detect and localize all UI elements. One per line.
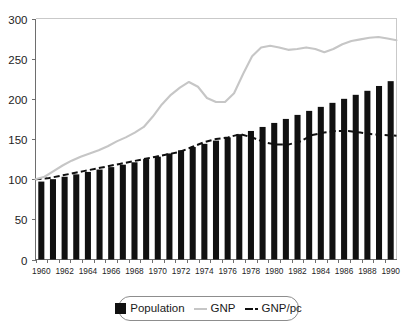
x-tick-label: 1968 bbox=[125, 266, 144, 276]
population-bar bbox=[143, 159, 149, 259]
population-bar bbox=[38, 182, 44, 260]
population-bar bbox=[248, 131, 254, 260]
y-tick-label: 50 bbox=[15, 214, 28, 226]
population-bar bbox=[50, 179, 56, 259]
population-bar bbox=[329, 103, 335, 260]
x-tick-label: 1990 bbox=[381, 266, 400, 276]
population-bar bbox=[201, 144, 207, 260]
population-bar bbox=[213, 141, 219, 260]
x-tick-label: 1970 bbox=[149, 266, 168, 276]
y-tick-label: 150 bbox=[8, 134, 27, 146]
x-tick-label: 1960 bbox=[32, 266, 51, 276]
x-tick-label: 1980 bbox=[265, 266, 284, 276]
legend-label-gnp: GNP bbox=[211, 303, 236, 315]
gnp-line-swatch-icon bbox=[194, 308, 207, 310]
population-bar bbox=[120, 165, 126, 260]
x-tick-label: 1972 bbox=[172, 266, 191, 276]
y-tick-label: 200 bbox=[8, 94, 27, 106]
chart-legend: Population GNP GNP/pc bbox=[118, 296, 299, 321]
population-bar bbox=[155, 157, 161, 260]
legend-item-gnp: GNP bbox=[194, 303, 236, 315]
x-tick-label: 1988 bbox=[358, 266, 377, 276]
population-swatch-icon bbox=[115, 303, 126, 314]
x-tick-label: 1982 bbox=[288, 266, 307, 276]
gnp-per-capita-line-swatch-icon bbox=[245, 308, 258, 310]
y-tick-label: 300 bbox=[8, 14, 27, 26]
population-bar bbox=[236, 134, 242, 259]
population-bar bbox=[97, 170, 103, 260]
x-tick-label: 1986 bbox=[335, 266, 354, 276]
index-chart-plot: 050100150200250300 196019621964196619681… bbox=[0, 0, 414, 330]
population-bar bbox=[190, 147, 196, 259]
legend-item-gnp-per-capita: GNP/pc bbox=[245, 303, 302, 315]
x-tick-label: 1964 bbox=[79, 266, 98, 276]
population-bar bbox=[341, 99, 347, 260]
population-bar bbox=[62, 177, 68, 260]
x-tick-label: 1984 bbox=[312, 266, 331, 276]
population-bar bbox=[294, 115, 300, 260]
population-bar bbox=[283, 119, 289, 260]
population-bar bbox=[318, 107, 324, 260]
population-bar bbox=[306, 111, 312, 260]
population-bar bbox=[85, 172, 91, 260]
population-bar bbox=[131, 162, 137, 259]
chart-container: 050100150200250300 196019621964196619681… bbox=[0, 0, 414, 330]
y-tick-label: 100 bbox=[8, 174, 27, 186]
population-bar bbox=[353, 95, 359, 260]
population-bar bbox=[108, 167, 114, 259]
legend-item-population: Population bbox=[115, 303, 184, 315]
x-tick-label: 1976 bbox=[218, 266, 237, 276]
population-bar bbox=[388, 81, 394, 259]
y-tick-label: 250 bbox=[8, 54, 27, 66]
population-bar bbox=[364, 91, 370, 260]
x-tick-label: 1962 bbox=[55, 266, 74, 276]
population-bar bbox=[376, 86, 382, 260]
population-bar bbox=[225, 137, 231, 259]
y-tick-label: 0 bbox=[21, 255, 27, 267]
x-tick-label: 1966 bbox=[102, 266, 121, 276]
x-axis-ticks: 1960196219641966196819701972197419761978… bbox=[32, 260, 400, 276]
population-bar bbox=[260, 127, 266, 260]
population-bar bbox=[178, 150, 184, 259]
population-bar bbox=[166, 153, 172, 259]
legend-label-gnp-per-capita: GNP/pc bbox=[262, 303, 302, 315]
population-bar bbox=[73, 174, 79, 259]
legend-label-population: Population bbox=[130, 303, 184, 315]
x-tick-label: 1978 bbox=[242, 266, 261, 276]
y-axis-ticks: 050100150200250300 bbox=[8, 14, 35, 267]
x-tick-label: 1974 bbox=[195, 266, 214, 276]
